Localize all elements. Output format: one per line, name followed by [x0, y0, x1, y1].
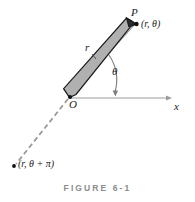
radius-label: r: [85, 42, 89, 53]
x-axis: [70, 96, 172, 101]
opposite-point-dot: [12, 164, 16, 168]
angle-theta-label: θ: [112, 66, 117, 77]
figure-canvas: [0, 0, 195, 202]
point-p-dot: [134, 22, 138, 26]
x-axis-label: x: [174, 101, 179, 112]
figure-caption: FIGURE 6-1: [0, 183, 195, 193]
r-vector: [64, 18, 136, 98]
opposite-ray-dashed-line: [16, 99, 68, 164]
r-vector-arrowhead: [127, 18, 137, 27]
point-p-label: P: [131, 7, 138, 18]
point-p-coordinates-label: (r, θ): [141, 19, 160, 29]
r-vector-body: [64, 18, 136, 98]
polar-coordinate-figure: P (r, θ) r θ O x (r, θ + π) FIGURE 6-1: [0, 0, 195, 202]
origin-label: O: [69, 99, 77, 110]
opposite-point-coordinates-label: (r, θ + π): [18, 159, 54, 169]
theta-arc-arrowhead: [113, 91, 118, 97]
x-axis-arrowhead: [166, 96, 172, 101]
